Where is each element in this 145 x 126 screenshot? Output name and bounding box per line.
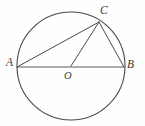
point-label-a: A: [6, 57, 13, 69]
segment-ac-chord: [17, 22, 99, 67]
geometry-figure: A B C O: [0, 0, 145, 126]
point-label-o-center: O: [64, 71, 72, 82]
point-label-b: B: [127, 59, 134, 71]
circle-diagram-canvas: [0, 0, 145, 126]
point-label-c: C: [100, 5, 108, 17]
segment-oc-radius: [71, 22, 99, 66]
